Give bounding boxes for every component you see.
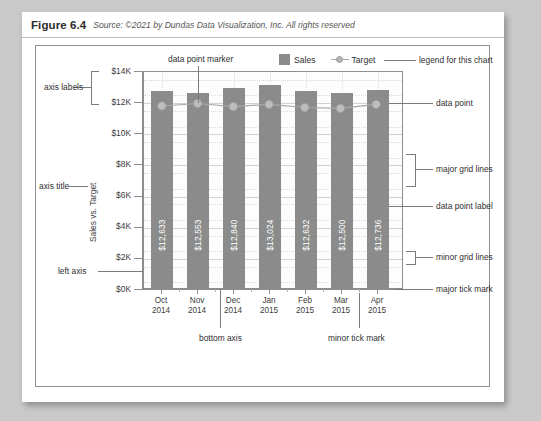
- x-minor-tick: [215, 289, 216, 292]
- x-minor-tick: [179, 289, 180, 292]
- major-grid-lines-leader: [415, 169, 433, 170]
- x-major-tick: [377, 289, 378, 294]
- x-axis-label: Feb 2015: [285, 296, 325, 316]
- y-tick: [134, 289, 143, 290]
- x-major-tick: [341, 289, 342, 294]
- annotation-left-axis: left axis: [58, 266, 86, 276]
- x-major-tick: [233, 289, 234, 294]
- x-major-tick: [161, 289, 162, 294]
- chart-legend: Sales Target: [279, 54, 390, 65]
- annotation-data-point: data point: [436, 98, 473, 108]
- y-tick: [134, 71, 143, 72]
- x-minor-tick: [287, 289, 288, 292]
- major-tick-mark-leader: [394, 289, 433, 290]
- left-axis-line: [142, 71, 143, 289]
- annotation-axis-title: axis title: [39, 181, 69, 191]
- x-major-tick: [197, 289, 198, 294]
- x-label-month: Nov: [177, 296, 217, 306]
- y-axis-label: $4K: [99, 221, 131, 231]
- legend-target-marker-icon: [331, 54, 349, 65]
- y-axis-label: $10K: [99, 128, 131, 138]
- annotation-legend: legend for this chart: [419, 55, 493, 65]
- x-minor-tick: [251, 289, 252, 292]
- chart-plot-area: $12,633 $12,553 $12,840 $13,024 $12,632 …: [144, 72, 402, 288]
- bottom-axis-line: [143, 289, 403, 290]
- y-axis-title: Sales vs. Target: [88, 183, 98, 242]
- y-axis-label: $0K: [99, 284, 131, 294]
- annotation-axis-labels: axis labels: [44, 82, 83, 92]
- x-label-month: Oct: [141, 296, 181, 306]
- figure-number: Figure 6.4: [31, 19, 86, 31]
- y-tick: [134, 258, 143, 259]
- x-minor-tick: [359, 289, 360, 292]
- x-label-year: 2015: [249, 306, 289, 316]
- annotation-data-point-label: data point label: [436, 201, 493, 211]
- axis-labels-bracket: [91, 71, 99, 105]
- y-axis-label: $2K: [99, 252, 131, 262]
- data-point-marker-leader: [198, 66, 199, 103]
- minor-grid-lines-bracket: [406, 251, 416, 265]
- x-axis-label: Jan 2015: [249, 296, 289, 316]
- legend-leader-line: [384, 60, 416, 61]
- y-axis-label: $8K: [99, 159, 131, 169]
- legend-target-label: Target: [352, 55, 376, 65]
- data-point-label-leader: [389, 206, 433, 207]
- x-minor-tick: [323, 289, 324, 292]
- target-series-line: [144, 72, 402, 288]
- x-axis-label: Nov 2014: [177, 296, 217, 316]
- y-tick: [134, 102, 143, 103]
- annotation-data-point-marker: data point marker: [168, 54, 233, 64]
- x-label-year: 2014: [177, 306, 217, 316]
- annotation-minor-grid-lines: minor grid lines: [436, 252, 493, 262]
- x-label-month: Apr: [357, 296, 397, 306]
- annotation-minor-tick-mark: minor tick mark: [328, 333, 385, 343]
- y-axis-label: $6K: [99, 190, 131, 200]
- x-label-year: 2014: [213, 306, 253, 316]
- y-tick: [134, 164, 143, 165]
- x-label-year: 2014: [141, 306, 181, 316]
- figure-caption: Figure 6.4 Source: ©2021 by Dundas Data …: [22, 12, 504, 38]
- y-tick: [134, 133, 143, 134]
- figure-source: Source: ©2021 by Dundas Data Visualizati…: [93, 20, 354, 30]
- minor-grid-lines-leader: [415, 257, 433, 258]
- x-axis-label: Dec 2014: [213, 296, 253, 316]
- x-label-month: Mar: [321, 296, 361, 306]
- y-axis-label: $12K: [99, 97, 131, 107]
- x-label-year: 2015: [285, 306, 325, 316]
- x-label-month: Feb: [285, 296, 325, 306]
- annotation-major-grid-lines: major grid lines: [436, 164, 493, 174]
- y-tick: [134, 227, 143, 228]
- annotation-major-tick-mark: major tick mark: [436, 284, 493, 294]
- chart-plot-frame: $12,633 $12,553 $12,840 $13,024 $12,632 …: [143, 71, 403, 289]
- x-major-tick: [269, 289, 270, 294]
- x-axis-label: Mar 2015: [321, 296, 361, 316]
- left-axis-leader: [98, 271, 143, 272]
- x-major-tick: [305, 289, 306, 294]
- legend-sales-label: Sales: [294, 55, 316, 65]
- annotation-bottom-axis: bottom axis: [199, 333, 242, 343]
- y-tick: [134, 196, 143, 197]
- bottom-axis-leader: [220, 290, 221, 328]
- figure-page: Figure 6.4 Source: ©2021 by Dundas Data …: [22, 12, 504, 402]
- legend-sales-swatch-icon: [279, 54, 290, 65]
- x-label-month: Dec: [213, 296, 253, 306]
- minor-tick-mark-leader: [359, 293, 360, 328]
- data-point-leader: [389, 103, 433, 104]
- y-axis-label: $14K: [99, 66, 131, 76]
- x-label-month: Jan: [249, 296, 289, 306]
- x-label-year: 2015: [321, 306, 361, 316]
- x-label-year: 2015: [357, 306, 397, 316]
- axis-title-leader: [69, 186, 88, 187]
- x-axis-label: Oct 2014: [141, 296, 181, 316]
- x-axis-label: Apr 2015: [357, 296, 397, 316]
- major-grid-lines-bracket: [406, 154, 416, 187]
- annotated-chart-container: Sales Target legend for this chart: [35, 45, 490, 387]
